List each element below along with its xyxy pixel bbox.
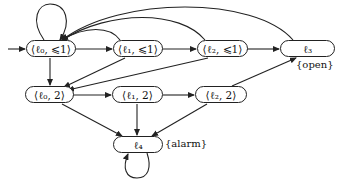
state-label: ℓ₃: [303, 43, 312, 55]
edge-l22-l3: [232, 58, 296, 86]
edge-self-l0le1: [37, 4, 67, 40]
state-l2-2: ⟨ℓ₂, 2⟩: [195, 86, 247, 103]
edge-l22-l4: [152, 104, 207, 136]
state-l3: ℓ₃: [280, 40, 335, 57]
annotation-open: {open}: [296, 59, 334, 70]
state-l2-le1: ⟨ℓ₂, ⩽1⟩: [197, 40, 248, 57]
state-label: ⟨ℓ₁, ⩽1⟩: [118, 43, 158, 55]
state-label: ⟨ℓ₀, 2⟩: [34, 89, 65, 101]
state-label: ℓ₄: [133, 139, 142, 151]
edge-l2le1-l0le1: [62, 18, 205, 41]
state-label: ⟨ℓ₀, ⩽1⟩: [31, 43, 71, 55]
state-l0-2: ⟨ℓ₀, 2⟩: [25, 86, 74, 103]
edge-self-l4: [125, 153, 149, 178]
state-l1-le1: ⟨ℓ₁, ⩽1⟩: [113, 40, 163, 57]
annotation-alarm: {alarm}: [165, 138, 207, 149]
state-label: ⟨ℓ₁, 2⟩: [122, 89, 153, 101]
state-label: ⟨ℓ₂, ⩽1⟩: [203, 43, 243, 55]
edge-l1le1-l02: [64, 58, 125, 87]
edge-l02-l4: [62, 104, 122, 136]
state-l1-2: ⟨ℓ₁, 2⟩: [112, 86, 163, 103]
edge-l3-l0le1: [62, 7, 293, 40]
state-l4: ℓ₄: [113, 136, 163, 153]
state-label: ⟨ℓ₂, 2⟩: [206, 89, 237, 101]
state-l0-le1: ⟨ℓ₀, ⩽1⟩: [26, 40, 76, 57]
